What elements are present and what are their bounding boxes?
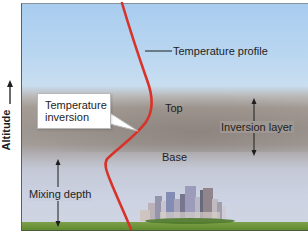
callout-line-2: inversion <box>45 111 110 123</box>
city-skyline <box>140 186 235 224</box>
mixing-depth-label: Mixing depth <box>28 187 92 201</box>
temperature-inversion-callout: Temperature inversion <box>37 93 111 129</box>
inversion-top-label: Top <box>165 102 183 114</box>
altitude-axis-label: Altitude <box>0 110 12 151</box>
temperature-profile-label: Temperature profile <box>173 45 268 57</box>
callout-line-1: Temperature <box>45 99 110 111</box>
callout-pointer <box>110 113 138 131</box>
up-arrow-icon <box>7 80 13 104</box>
inversion-layer-label: Inversion layer <box>220 121 294 133</box>
inversion-base-label: Base <box>162 151 187 163</box>
